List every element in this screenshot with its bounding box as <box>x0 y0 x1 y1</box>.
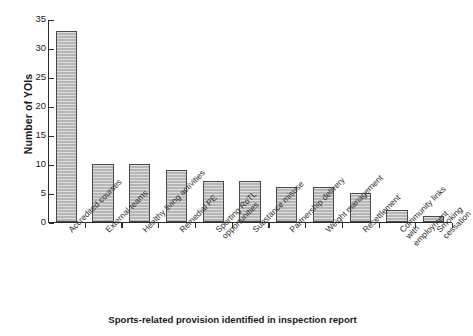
y-axis-tick-label: 5 <box>22 187 46 198</box>
y-axis-tick-label: 35 <box>22 13 46 24</box>
y-axis-tick-mark <box>49 223 54 224</box>
y-axis-tick-mark <box>49 107 54 108</box>
x-axis-tick-mark <box>85 223 86 228</box>
y-axis-tick-label: 25 <box>22 71 46 82</box>
bar <box>56 31 77 222</box>
y-axis-tick-label: 15 <box>22 129 46 140</box>
x-axis-title: Sports-related provision identified in i… <box>0 314 465 325</box>
x-axis-tick-mark <box>342 223 343 228</box>
y-axis-tick-mark <box>49 78 54 79</box>
x-axis-tick-mark <box>121 223 122 228</box>
y-axis-tick-label: 20 <box>22 100 46 111</box>
y-axis-tick-label: 0 <box>22 216 46 227</box>
y-axis-tick-label: 30 <box>22 42 46 53</box>
y-axis-tick-mark <box>49 49 54 50</box>
y-axis-tick-mark <box>49 136 54 137</box>
y-axis-tick-mark <box>49 165 54 166</box>
y-axis-tick-label: 10 <box>22 158 46 169</box>
y-axis-tick-mark <box>49 194 54 195</box>
x-axis-tick-mark <box>379 223 380 228</box>
y-axis-title: Number of YOIs <box>22 34 34 194</box>
y-axis-line <box>48 20 49 223</box>
y-axis-tick-mark <box>49 20 54 21</box>
